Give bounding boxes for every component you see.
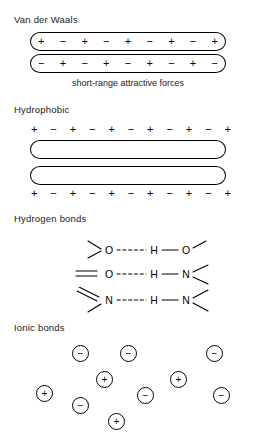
charge-sign: +: [60, 58, 66, 69]
atom-label-hydrogen: H: [150, 244, 158, 256]
charge-sign: +: [103, 58, 109, 69]
charge-sign: +: [146, 58, 152, 69]
charge-sign: +: [190, 58, 196, 69]
ion-positive: +: [96, 371, 113, 388]
charge-sign: −: [125, 58, 131, 69]
hydrophobic-top-surface: [30, 140, 226, 159]
charge-sign: −: [81, 58, 87, 69]
charge-sign: −: [128, 188, 134, 199]
ion-positive: +: [36, 385, 53, 402]
ion-negative: −: [213, 387, 230, 404]
charge-sign: −: [212, 58, 218, 69]
hydrophobic-top-signs: + − + − + − + − + − +: [31, 123, 231, 135]
atom-label-oxygen: O: [105, 268, 113, 280]
charge-sign: +: [31, 124, 37, 135]
hbond-nh-n-structure: N H N: [0, 287, 256, 315]
charge-sign: −: [103, 36, 109, 47]
charge-sign: +: [31, 188, 37, 199]
atom-label-hydrogen: H: [150, 294, 158, 306]
charge-sign: +: [125, 36, 131, 47]
charge-sign: −: [128, 124, 134, 135]
charge-sign: +: [224, 124, 230, 135]
ion-positive: +: [108, 413, 125, 430]
ion-negative: −: [72, 397, 89, 414]
ion-positive: +: [170, 371, 187, 388]
charge-sign: +: [147, 188, 153, 199]
atom-label-oxygen: O: [182, 244, 190, 256]
charge-sign: −: [89, 188, 95, 199]
charge-sign: +: [147, 124, 153, 135]
ion-negative: −: [206, 345, 223, 362]
charge-sign: +: [108, 188, 114, 199]
hbond-oh-o: O H O: [0, 238, 256, 262]
vdw-bottom-signs: − + − + − + − + −: [38, 54, 218, 73]
charge-sign: +: [70, 124, 76, 135]
charge-sign: −: [205, 188, 211, 199]
charge-sign: −: [89, 124, 95, 135]
heading-ionic-bonds: Ionic bonds: [14, 322, 65, 333]
hbond-nh-n: N H N: [0, 287, 256, 311]
atom-label-oxygen: O: [105, 244, 113, 256]
hbond-oh-o-structure: O H O: [0, 238, 256, 264]
heading-hydrogen-bonds: Hydrogen bonds: [14, 213, 87, 224]
charge-sign: +: [224, 188, 230, 199]
vdw-top-signs: + − + − + − + − +: [38, 32, 218, 51]
ion-negative: −: [120, 345, 137, 362]
ion-negative: −: [72, 345, 89, 362]
charge-sign: −: [166, 124, 172, 135]
atom-label-nitrogen: N: [182, 268, 190, 280]
heading-van-der-waals: Van der Waals: [14, 14, 78, 25]
hydrophobic-bottom-surface: [30, 166, 226, 185]
hbond-oh-n: O H N: [0, 262, 256, 286]
charge-sign: −: [38, 58, 44, 69]
charge-sign: −: [60, 36, 66, 47]
charge-sign: +: [168, 36, 174, 47]
ion-negative: −: [137, 387, 154, 404]
charge-sign: +: [108, 124, 114, 135]
hydrophobic-bottom-signs: + − + − + − + − + − +: [31, 187, 231, 199]
charge-sign: +: [212, 36, 218, 47]
charge-sign: +: [38, 36, 44, 47]
charge-sign: −: [190, 36, 196, 47]
atom-label-hydrogen: H: [150, 268, 158, 280]
charge-sign: +: [70, 188, 76, 199]
charge-sign: −: [50, 124, 56, 135]
caption-short-range-forces: short-range attractive forces: [0, 78, 256, 88]
charge-sign: −: [205, 124, 211, 135]
charge-sign: −: [50, 188, 56, 199]
charge-sign: +: [186, 124, 192, 135]
charge-sign: +: [186, 188, 192, 199]
charge-sign: −: [166, 188, 172, 199]
charge-sign: −: [168, 58, 174, 69]
charge-sign: +: [81, 36, 87, 47]
atom-label-nitrogen: N: [182, 294, 190, 306]
hbond-oh-n-structure: O H N: [0, 262, 256, 288]
charge-sign: −: [146, 36, 152, 47]
atom-label-nitrogen: N: [105, 294, 113, 306]
heading-hydrophobic: Hydrophobic: [14, 104, 70, 115]
